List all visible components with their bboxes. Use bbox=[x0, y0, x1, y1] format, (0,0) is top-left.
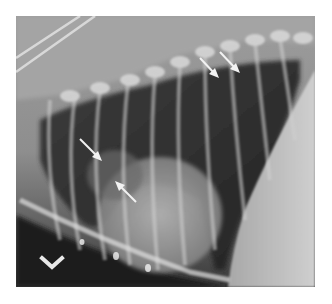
radiograph-svg bbox=[16, 16, 315, 287]
radiograph-image bbox=[16, 16, 315, 287]
